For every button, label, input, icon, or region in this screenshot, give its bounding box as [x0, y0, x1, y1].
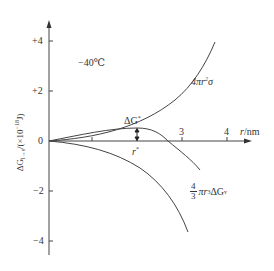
r-star-sup: *	[136, 146, 139, 152]
x-axis-label: r/nm	[240, 127, 259, 137]
y-label-unit: /(×10	[15, 129, 25, 149]
y-label-end: J)	[15, 114, 25, 121]
x-tick-label-3: 3	[179, 127, 184, 137]
delta-g-star-arrow	[135, 129, 139, 141]
surface-sigma: σ	[208, 76, 213, 87]
y-axis-arrow-icon	[47, 20, 52, 28]
r-star-label: r*	[132, 146, 139, 157]
surface-coef: 4π	[191, 76, 201, 87]
surface-term-label: 4πr2σ	[191, 76, 213, 87]
temperature-annotation: −40℃	[78, 58, 105, 68]
volume-term-label: 4 3 πr3ΔGv	[190, 182, 227, 201]
x-axis-arrow-icon	[244, 139, 252, 144]
y-tick-label-minus2: −2	[33, 186, 44, 196]
volume-fraction: 4 3	[190, 182, 197, 201]
y-axis-label: ΔGl→s/(×10−18J)	[14, 92, 27, 192]
y-label-main: ΔG	[15, 159, 25, 171]
x-ticks	[92, 137, 227, 141]
y-tick-label-minus4: −4	[33, 236, 44, 246]
volume-frac-den: 3	[191, 192, 196, 201]
y-tick-label-plus2: +2	[32, 86, 43, 96]
y-label-exp: −18	[14, 120, 20, 129]
volume-sub: v	[224, 189, 227, 195]
delta-g-text: ΔG	[124, 115, 138, 126]
y-label-sub: l→s	[20, 149, 26, 159]
x-tick-label-4: 4	[224, 127, 229, 137]
y-tick-label-0: 0	[38, 136, 43, 146]
volume-dg: ΔG	[210, 186, 224, 197]
curve-volume-energy	[49, 141, 188, 232]
x-axis-unit: /nm	[244, 126, 260, 137]
delta-g-star-sup: *	[138, 115, 141, 121]
y-tick-label-plus4: +4	[32, 36, 43, 46]
curve-net-free-energy	[49, 128, 200, 170]
delta-g-star-label: ΔG*	[124, 115, 141, 126]
